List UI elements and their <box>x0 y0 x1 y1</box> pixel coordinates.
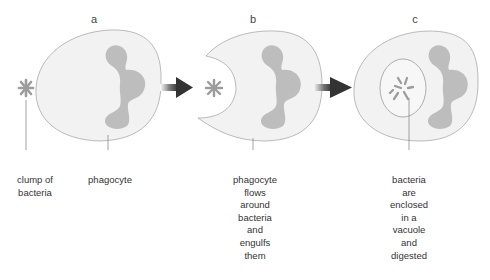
label-clump-of-bacteria: clump of bacteria <box>2 174 68 199</box>
panel-label-a: a <box>84 13 104 25</box>
bacteria-clump-icon <box>206 80 222 96</box>
label-phagocyte: phagocyte <box>78 174 142 187</box>
label-engulfs: phagocyte flows around bacteria and engu… <box>223 174 287 262</box>
arrow-right-icon <box>160 77 193 98</box>
panel-label-c: c <box>405 13 425 25</box>
phagocyte-cell-a <box>36 30 161 141</box>
vacuole-icon <box>380 59 426 117</box>
phagocyte-cell-c <box>354 31 478 141</box>
label-digested: bacteria are enclosed in a vacuole and d… <box>376 174 442 262</box>
bacteria-clump-icon <box>19 80 33 96</box>
panel-label-b: b <box>243 13 263 25</box>
